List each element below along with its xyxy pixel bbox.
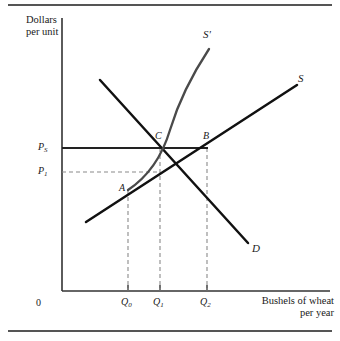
y-axis-title-line1: Dollars [26,14,58,26]
y-tick-label-ps-sub: S [44,146,48,154]
y-tick-label-p1-sub: 1 [44,170,48,178]
x-tick-label-q2-sub: 2 [207,301,211,309]
x-axis-title-line1: Bushels of wheat [236,295,334,307]
y-tick-label-ps: PS [38,141,48,154]
x-axis-title: Bushels of wheat per year [236,295,334,319]
figure-container: Dollars per unit Bushels of wheat per ye… [0,0,340,341]
x-tick-label-q0-sub: 0 [128,301,132,309]
x-tick-label-q2: Q2 [200,296,211,309]
x-axis-title-line2: per year [236,307,334,319]
y-axis-title: Dollars per unit [26,14,58,38]
x-tick-label-q0: Q0 [121,296,132,309]
demand-curve [100,80,248,243]
origin-label: 0 [36,297,41,308]
y-tick-label-p1: P1 [38,165,48,178]
x-tick-label-q1: Q1 [153,296,164,309]
curve-label-supply-shifted: S' [203,28,211,40]
curve-label-supply: S [298,72,304,84]
curve-label-demand: D [252,242,260,254]
point-label-c: C [155,130,162,141]
y-axis-title-line2: per unit [26,26,58,38]
supply-curve [86,85,297,222]
x-tick-label-q1-sub: 1 [160,301,164,309]
point-label-b: B [203,130,209,141]
point-label-a: A [119,182,125,193]
plot-area [0,0,340,341]
